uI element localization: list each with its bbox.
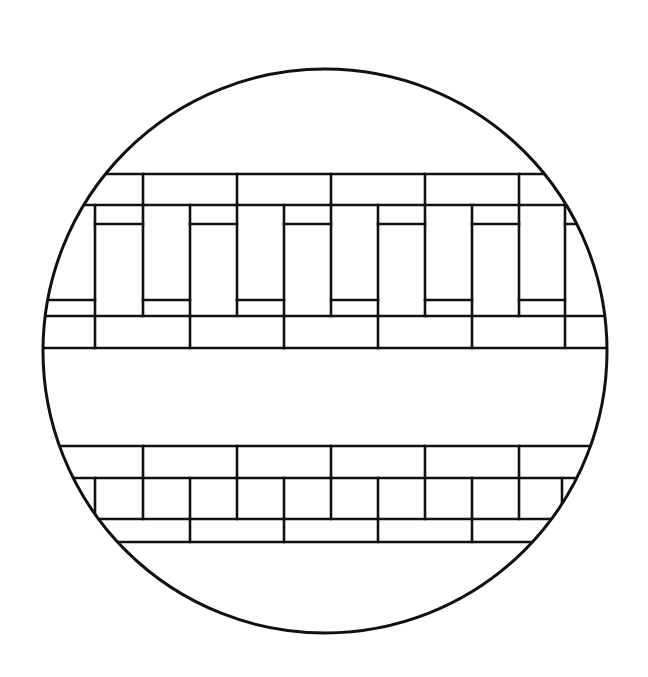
diagram-canvas: Circular stained-glass lattice pattern: [0, 0, 648, 677]
circle-outline: [43, 69, 607, 633]
lattice-pattern: [40, 174, 610, 542]
lattice-circle-figure: [0, 0, 648, 677]
